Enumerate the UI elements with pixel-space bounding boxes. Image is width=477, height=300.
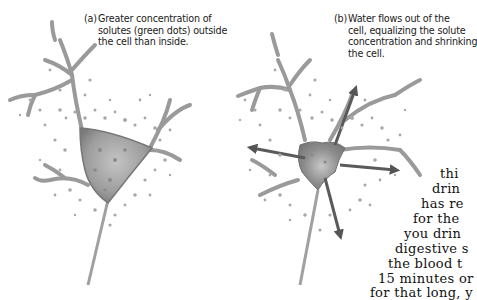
caption-panel-b: (b) Water flows out of the cell, equaliz… [334,13,474,63]
cell-a-normal [10,22,190,285]
caption-b-line-3: concentration and shrinking [348,36,477,48]
panel-b-label: (b) [334,13,347,25]
panel-a-label: (a) [84,13,97,25]
caption-b-line-2: cell, equalizing the solute [348,25,465,37]
cell-b-shrunk [238,34,420,285]
caption-a-line-2: solutes (green dots) outside [98,25,227,37]
caption-b-line-4: the cell. [348,48,385,60]
caption-a-line-3: the cell than inside. [98,36,188,48]
caption-a-line-1: Greater concentration of [98,13,212,25]
caption-b-line-1: Water flows out of the [348,13,450,25]
caption-panel-a: (a) Greater concentration of solutes (gr… [84,13,234,53]
